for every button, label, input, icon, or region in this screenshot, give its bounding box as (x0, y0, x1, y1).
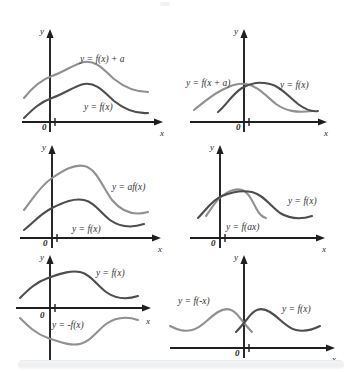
origin-label: 0 (236, 122, 241, 132)
x-axis-label: x (323, 128, 328, 138)
y-axis-label: y (41, 142, 46, 152)
label-base: y = f(x) (281, 304, 311, 315)
panel-horizontal-stretch: y x 0 y = f(x) y = f(ax) (188, 142, 348, 256)
curve-transformed (24, 62, 148, 98)
label-base: y = f(x) (287, 196, 317, 207)
label-transformed: y = f(x) + a (79, 54, 125, 65)
page-bottom-edge (18, 360, 344, 370)
page-scan-artifact (160, 2, 170, 6)
y-axis-label: y (39, 252, 44, 262)
y-axis-label: y (233, 252, 238, 262)
x-axis-label: x (159, 128, 164, 138)
panel-vertical-shift: y x 0 y = f(x) + a y = f(x) (18, 24, 178, 142)
label-base: y = f(x) (71, 224, 101, 235)
panel-reflect-y-axis: y x 0 y = f(-x) y = f(x) (170, 252, 352, 368)
label-transformed: y = f(x + a) (185, 78, 230, 89)
label-base: y = f(x) (83, 102, 113, 113)
origin-label: 0 (40, 310, 45, 320)
panel-reflect-x-axis: y x 0 y = f(x) y = -f(x) (14, 252, 174, 368)
origin-label: 0 (42, 122, 47, 132)
x-axis-label: x (145, 316, 150, 326)
origin-label: 0 (235, 348, 240, 358)
label-transformed: y = f(ax) (225, 222, 259, 233)
graph-transformations-figure: y x 0 y = f(x) + a y = f(x) y x 0 (0, 0, 352, 372)
y-axis-label: y (39, 26, 44, 36)
origin-label: 0 (43, 238, 48, 248)
label-base: y = f(x) (95, 268, 125, 279)
y-axis-label: y (209, 142, 214, 152)
panel-vertical-stretch: y x 0 y = af(x) y = f(x) (18, 142, 178, 256)
origin-label: 0 (211, 238, 216, 248)
label-base: y = f(x) (279, 80, 309, 91)
axes (16, 255, 151, 360)
label-transformed: y = f(-x) (177, 296, 210, 307)
panel-horizontal-shift: y x 0 y = f(x + a) y = f(x) (188, 24, 348, 142)
label-transformed: y = af(x) (111, 182, 145, 193)
y-axis-label: y (233, 26, 238, 36)
label-transformed: y = -f(x) (51, 320, 84, 331)
